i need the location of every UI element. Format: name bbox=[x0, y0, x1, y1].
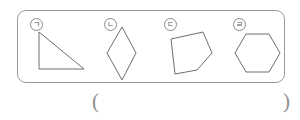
shape-group-box: ㄱ ㄴ ㄷ ㄹ bbox=[17, 10, 285, 83]
worksheet-root: ㄱ ㄴ ㄷ ㄹ ( ) bbox=[0, 0, 300, 120]
answer-open-paren: ( bbox=[92, 86, 99, 116]
rhombus-icon bbox=[87, 11, 153, 84]
figure-item-4[interactable]: ㄹ bbox=[217, 11, 286, 84]
hexagon-icon bbox=[217, 11, 286, 84]
figure-item-2[interactable]: ㄴ bbox=[87, 11, 153, 84]
answer-close-paren: ) bbox=[283, 86, 290, 116]
answer-blank[interactable] bbox=[104, 90, 280, 114]
answer-row: ( ) bbox=[0, 86, 300, 120]
